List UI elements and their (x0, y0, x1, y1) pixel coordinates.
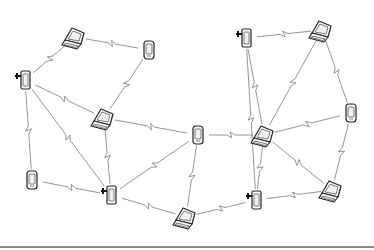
network-diagram (0, 0, 374, 250)
wireless-link (43, 182, 100, 193)
radio-handset-icon (246, 191, 261, 209)
phone-icon (144, 41, 154, 59)
wireless-link (273, 142, 324, 183)
wireless-link (267, 191, 321, 198)
radio-handset-icon (236, 29, 251, 47)
bottom-divider (0, 246, 374, 248)
wireless-link (188, 146, 197, 206)
wireless-link (86, 39, 138, 48)
wireless-link (257, 31, 311, 37)
wireless-link (32, 89, 105, 186)
wireless-link (122, 198, 176, 214)
wireless-link (269, 40, 316, 126)
phone-icon (346, 104, 356, 122)
wireless-link (248, 49, 262, 124)
phone-icon (27, 171, 37, 189)
wireless-link (35, 85, 94, 113)
laptop-icon (173, 208, 195, 229)
links-layer (26, 31, 349, 214)
wireless-link (105, 129, 111, 184)
laptop-icon (251, 126, 273, 147)
laptop-icon (62, 28, 84, 49)
radio-handset-icon (101, 186, 116, 204)
wireless-link (247, 49, 256, 189)
wireless-link (197, 203, 246, 215)
laptop-icon (309, 21, 331, 42)
wireless-link (33, 44, 66, 73)
radio-handset-icon (15, 71, 30, 89)
laptop-icon (319, 181, 341, 202)
wireless-link (120, 141, 189, 189)
wireless-link (110, 59, 143, 109)
wireless-link (257, 146, 263, 189)
wireless-link (26, 91, 32, 169)
wireless-link (335, 124, 349, 180)
wireless-link (275, 116, 341, 133)
phone-icon (193, 126, 203, 144)
wireless-link (326, 40, 348, 102)
wireless-link (115, 120, 187, 133)
wireless-link (209, 132, 253, 138)
laptop-icon (91, 109, 113, 130)
